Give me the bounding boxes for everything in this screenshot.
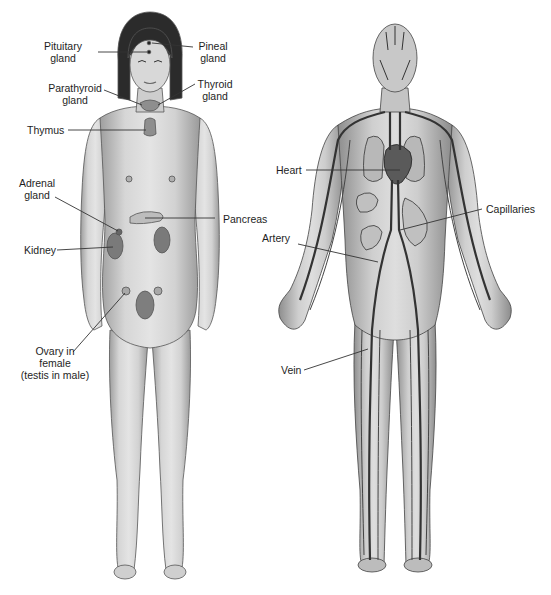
right-kidney-shape (154, 227, 170, 253)
left-leg (109, 330, 148, 570)
label-line: gland (190, 90, 240, 102)
capillaries-label: Capillaries (486, 203, 535, 215)
label-line: Vein (281, 364, 301, 376)
label-line: Heart (276, 164, 302, 176)
label-line: female (15, 357, 95, 369)
left-ovary-shape (122, 287, 130, 295)
circulatory-figure (279, 24, 512, 572)
label-line: Kidney (24, 244, 56, 256)
pituitary-gland-label: Pituitary gland (28, 40, 98, 64)
parathyroid-gland-label: Parathyroid gland (40, 82, 110, 106)
label-line: gland (12, 189, 62, 201)
label-line: Pituitary (28, 40, 98, 52)
label-line: gland (188, 52, 238, 64)
pituitary-gland-marker (147, 50, 151, 54)
pineal-gland-marker (147, 41, 151, 45)
label-line: Artery (262, 232, 290, 244)
left-foot (114, 565, 136, 579)
kidney-label: Kidney (24, 244, 56, 256)
label-line: Ovary in (15, 345, 95, 357)
label-line: gland (28, 52, 98, 64)
right-foot (404, 558, 432, 572)
label-line: Pineal (188, 40, 238, 52)
label-line: Thymus (27, 124, 64, 136)
label-line: Thyroid (190, 78, 240, 90)
label-line: Capillaries (486, 203, 535, 215)
left-nipple (126, 176, 132, 182)
label-line: Pancreas (223, 213, 267, 225)
right-foot (164, 565, 186, 579)
adrenal-gland-label: Adrenal gland (12, 177, 62, 201)
label-line: Parathyroid (40, 82, 110, 94)
label-line: (testis in male) (15, 369, 95, 381)
label-line: gland (40, 94, 110, 106)
right-nipple (169, 176, 175, 182)
artery-label: Artery (262, 232, 290, 244)
left-leg (354, 320, 394, 565)
right-leg (396, 320, 436, 565)
left-lung (364, 136, 385, 181)
thyroid-gland-label: Thyroid gland (190, 78, 240, 102)
pineal-gland-label: Heart Pineal gland (188, 40, 238, 64)
thymus-label: Thymus (27, 124, 64, 136)
right-ovary-shape (154, 287, 162, 295)
ovary-label: Ovary in female (testis in male) (15, 345, 95, 381)
thymus-shape (144, 118, 156, 136)
pubic-region (136, 291, 154, 319)
pancreas-label: Pancreas (223, 213, 267, 225)
diagram-stage: Pituitary gland Heart Pineal gland Parat… (0, 0, 551, 595)
left-kidney-shape (107, 233, 123, 259)
vein-label: Vein (281, 364, 301, 376)
torso (338, 108, 452, 340)
heart-label: Heart (276, 164, 302, 176)
label-line: Adrenal (12, 177, 62, 189)
left-foot (358, 558, 386, 572)
right-leg (152, 330, 191, 570)
